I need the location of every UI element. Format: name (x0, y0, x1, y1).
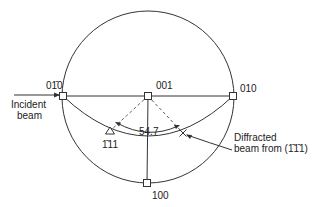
incident-beam-arrow (14, 93, 60, 98)
stereographic-diagram: 01̄0 001 010 100 1̄11 54.7 Incident beam… (0, 0, 317, 207)
label-diffracted-line2: beam from (1̄1̄1) (234, 143, 308, 154)
meridian-line (147, 96, 148, 183)
label-diffracted-line1: Diffracted (234, 132, 277, 143)
label-angle: 54.7 (139, 126, 159, 137)
label-0bar10: 01̄0 (46, 80, 63, 91)
label-incident-line1: Incident (11, 99, 46, 110)
label-001: 001 (156, 80, 173, 91)
square-marker-0bar10 (60, 93, 67, 100)
cross-marker-diffracted (180, 130, 187, 137)
label-010: 010 (240, 83, 257, 94)
square-marker-100 (144, 180, 151, 187)
diffracted-pointer-arrow (186, 135, 232, 151)
label-incident-line2: beam (17, 110, 42, 121)
square-marker-010 (230, 93, 237, 100)
label-1bar11: 1̄11 (102, 139, 118, 150)
triangle-marker-1bar11 (106, 127, 115, 134)
square-marker-001 (145, 93, 152, 100)
label-100: 100 (152, 190, 169, 201)
